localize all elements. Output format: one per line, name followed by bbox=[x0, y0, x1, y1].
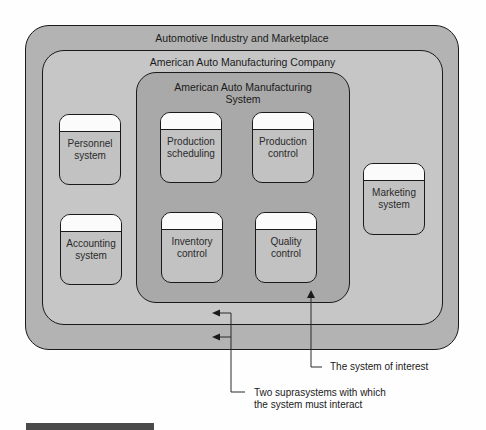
suprasystems-note-line2: the system must interact bbox=[254, 399, 386, 411]
arrowhead-left-icon bbox=[212, 310, 220, 317]
suprasystems-note: Two suprasystems with which the system m… bbox=[254, 387, 386, 411]
system-of-interest-leader-line bbox=[311, 298, 322, 367]
suprasystems-note-line1: Two suprasystems with which bbox=[254, 387, 386, 399]
system-of-interest-note: The system of interest bbox=[330, 361, 428, 373]
suprasystems-leader-line bbox=[219, 313, 245, 392]
arrowhead-left-icon bbox=[212, 334, 220, 341]
arrowhead-up-icon bbox=[307, 290, 315, 298]
caption-bar bbox=[26, 423, 154, 430]
